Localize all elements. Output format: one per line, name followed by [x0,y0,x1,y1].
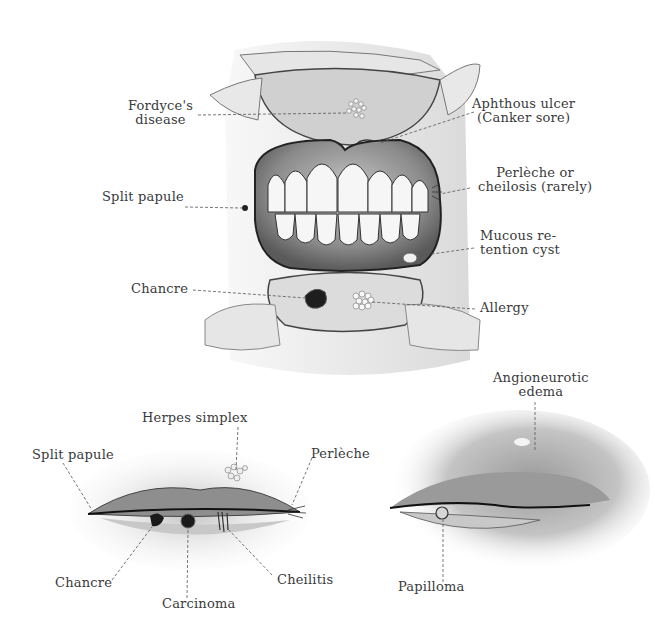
teeth [268,164,428,245]
label-line: Split papule [32,447,114,462]
label-line: Chancre [131,281,188,296]
label-cheilitis: Cheilitis [277,573,333,587]
label-line: (Canker sore) [472,111,575,125]
label-mucous-retention-cyst: Mucous re- tention cyst [480,229,560,257]
label-perleche-bottom: Perlèche [311,447,370,461]
label-angioneurotic-edema: Angioneurotic edema [493,371,589,399]
label-line: Aphthous ulcer [472,97,575,111]
lips-front-illustration [70,450,310,570]
open-mouth-illustration [205,41,480,375]
label-line: edema [493,385,589,399]
label-line: Mucous re- [480,229,560,243]
label-line: disease [128,113,193,127]
label-line: Chancre [55,575,112,590]
label-line: Fordyce's [128,99,193,113]
label-line: Split papule [102,189,184,204]
label-fordyces-disease: Fordyce's disease [128,99,193,127]
mucous-cyst-lesion [403,253,417,263]
label-herpes-simplex: Herpes simplex [142,411,248,425]
label-chancre-top: Chancre [131,282,188,296]
label-carcinoma: Carcinoma [162,597,235,611]
label-line: cheilosis (rarely) [478,180,592,194]
lips-side-illustration [390,410,650,570]
papilloma-lesion [436,507,448,519]
label-line: Angioneurotic [493,371,589,385]
label-split-papule-top: Split papule [102,190,184,204]
label-perleche-cheilosis: Perlèche or cheilosis (rarely) [478,166,592,194]
label-allergy: Allergy [480,301,529,315]
label-line: Cheilitis [277,572,333,587]
label-papilloma: Papilloma [398,580,464,594]
carcinoma-lesion [181,514,195,528]
label-line: Herpes simplex [142,410,248,425]
label-line: Papilloma [398,579,464,594]
label-line: Perlèche [311,446,370,461]
label-line: tention cyst [480,243,560,257]
label-line: Allergy [480,300,529,315]
label-line: Carcinoma [162,596,235,611]
label-split-papule-bottom: Split papule [32,448,114,462]
label-aphthous-ulcer: Aphthous ulcer (Canker sore) [472,97,575,125]
label-line: Perlèche or [478,166,592,180]
label-chancre-bottom: Chancre [55,576,112,590]
